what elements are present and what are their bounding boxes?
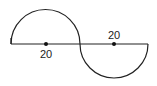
right-center-dot <box>112 42 116 46</box>
right-diameter-label: 20 <box>108 29 120 41</box>
left-center-dot <box>44 42 48 46</box>
left-diameter-label: 20 <box>40 48 52 60</box>
upper-semicircle <box>11 10 80 44</box>
s-shape-diagram: 20 20 <box>0 0 157 86</box>
lower-semicircle <box>80 44 148 78</box>
